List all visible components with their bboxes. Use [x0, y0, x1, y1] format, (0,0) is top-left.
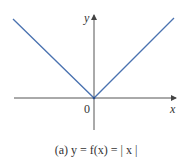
origin-point — [93, 97, 96, 100]
origin-label: 0 — [84, 102, 90, 116]
abs-value-graph: y x 0 — [0, 0, 192, 161]
x-axis-label: x — [169, 102, 176, 116]
figure-caption: (a) y = f(x) = | x | — [0, 143, 192, 158]
y-axis-label: y — [83, 11, 90, 25]
